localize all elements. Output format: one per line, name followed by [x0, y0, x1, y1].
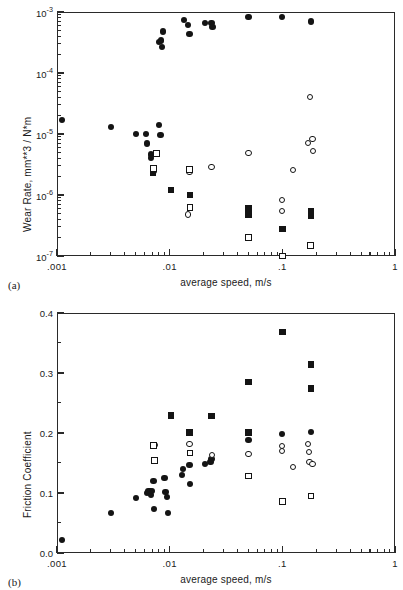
- data-point-open-circle: [209, 452, 215, 458]
- data-point-filled-square: [168, 412, 174, 418]
- x-minor-tick: [369, 549, 370, 553]
- y-minor-tick: [57, 36, 61, 37]
- y-tick-label: 0.1: [23, 488, 53, 499]
- data-point-open-square: [151, 457, 158, 464]
- x-minor-tick: [110, 549, 111, 553]
- data-point-open-square: [279, 498, 286, 505]
- x-major-tick: [394, 546, 395, 553]
- y-minor-tick: [57, 200, 61, 201]
- data-point-open-circle: [185, 211, 191, 217]
- x-minor-tick: [90, 252, 91, 256]
- data-point-filled-square: [245, 379, 251, 385]
- x-axis-title-a: average speed, m/s: [180, 277, 271, 288]
- x-minor-tick: [264, 549, 265, 553]
- y-minor-tick: [57, 86, 61, 87]
- y-minor-tick: [57, 30, 61, 31]
- data-point-filled-square: [308, 361, 314, 367]
- x-minor-tick: [164, 549, 165, 553]
- y-minor-tick: [57, 17, 61, 18]
- x-minor-tick: [223, 252, 224, 256]
- plot-area-a: [57, 12, 395, 256]
- data-point-filled-square: [208, 413, 214, 419]
- data-point-filled-square: [308, 385, 314, 391]
- y-minor-tick: [57, 197, 61, 198]
- y-tick-label: 0.0: [23, 548, 53, 559]
- y-minor-tick: [57, 54, 61, 55]
- x-minor-tick: [369, 252, 370, 256]
- x-tick-label: .001: [47, 558, 67, 569]
- chart-panel-a: Wear Rate, mm**3 / N*m average speed, m/…: [0, 0, 403, 300]
- y-minor-tick: [57, 136, 61, 137]
- data-point-filled-circle: [157, 132, 163, 138]
- x-major-tick: [169, 546, 170, 553]
- data-point-filled-circle: [161, 475, 167, 481]
- x-major-tick: [282, 546, 283, 553]
- x-tick-label: 1: [392, 558, 398, 569]
- x-minor-tick: [248, 252, 249, 256]
- x-minor-tick: [361, 252, 362, 256]
- y-major-tick: [57, 72, 64, 73]
- data-point-open-circle: [245, 451, 251, 457]
- data-point-filled-square: [186, 429, 192, 435]
- data-point-open-square: [279, 253, 286, 260]
- x-minor-tick: [90, 549, 91, 553]
- y-tick-label: 10-3: [21, 5, 53, 18]
- data-point-open-square: [307, 242, 314, 249]
- data-point-filled-square: [245, 205, 251, 211]
- data-point-open-circle: [208, 164, 214, 170]
- y-minor-tick: [57, 139, 61, 140]
- data-point-filled-square: [245, 429, 251, 435]
- data-point-filled-circle: [308, 18, 314, 24]
- data-point-open-square: [187, 204, 194, 211]
- x-minor-tick: [336, 549, 337, 553]
- data-point-filled-square: [168, 187, 174, 193]
- y-major-tick: [57, 11, 64, 12]
- x-minor-tick: [237, 549, 238, 553]
- x-tick-label: 1: [392, 261, 398, 272]
- data-point-filled-circle: [179, 472, 185, 478]
- data-point-filled-circle: [202, 20, 208, 26]
- x-minor-tick: [336, 252, 337, 256]
- data-point-filled-square: [279, 329, 285, 335]
- x-minor-tick: [277, 549, 278, 553]
- y-major-tick: [57, 312, 64, 313]
- y-minor-tick: [57, 82, 61, 83]
- y-minor-tick: [57, 213, 61, 214]
- data-point-open-square: [150, 165, 157, 172]
- y-tick-label: 0.2: [23, 428, 53, 439]
- data-point-filled-circle: [144, 140, 150, 146]
- x-minor-tick: [271, 252, 272, 256]
- panel-label-b: (b): [8, 576, 21, 588]
- x-minor-tick: [135, 252, 136, 256]
- data-point-filled-square: [279, 226, 285, 232]
- x-minor-tick: [257, 549, 258, 553]
- y-minor-tick: [57, 402, 61, 403]
- data-point-filled-circle: [186, 31, 192, 37]
- data-point-open-circle: [306, 449, 312, 455]
- x-tick-label: .1: [278, 261, 287, 272]
- y-minor-tick: [57, 522, 61, 523]
- y-minor-tick: [57, 152, 61, 153]
- data-point-filled-square: [308, 212, 314, 218]
- y-minor-tick: [57, 104, 61, 105]
- data-point-filled-circle: [165, 510, 171, 516]
- y-minor-tick: [57, 91, 61, 92]
- data-point-open-square: [308, 493, 315, 500]
- y-minor-tick: [57, 43, 61, 44]
- y-minor-tick: [57, 25, 61, 26]
- data-point-filled-circle: [150, 478, 156, 484]
- x-minor-tick: [124, 549, 125, 553]
- x-minor-tick: [152, 549, 153, 553]
- data-point-open-square: [245, 473, 252, 480]
- y-minor-tick: [57, 14, 61, 15]
- x-minor-tick: [350, 549, 351, 553]
- data-point-filled-circle: [133, 131, 139, 137]
- y-minor-tick: [57, 462, 61, 463]
- x-minor-tick: [257, 252, 258, 256]
- x-minor-tick: [389, 549, 390, 553]
- data-point-filled-circle: [185, 22, 191, 28]
- y-major-tick: [57, 133, 64, 134]
- x-minor-tick: [316, 549, 317, 553]
- x-minor-tick: [350, 252, 351, 256]
- x-minor-tick: [164, 252, 165, 256]
